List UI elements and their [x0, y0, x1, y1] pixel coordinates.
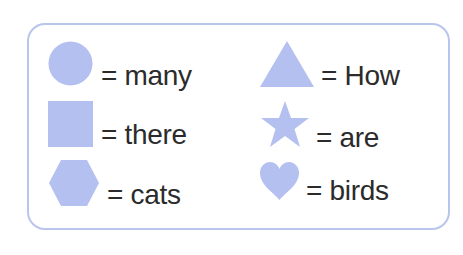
- legend-label-are: = are: [316, 124, 379, 152]
- legend-label-there: = there: [101, 121, 187, 149]
- legend-label-birds: = birds: [306, 177, 389, 205]
- legend-label-how: = How: [321, 62, 400, 90]
- square-icon: [48, 101, 93, 147]
- circle-icon: [48, 41, 93, 86]
- triangle-icon: [260, 41, 314, 87]
- legend-label-cats: = cats: [107, 181, 181, 209]
- heart-icon: [260, 162, 299, 201]
- legend-label-many: = many: [101, 62, 192, 90]
- hexagon-icon: [49, 160, 99, 206]
- star-icon: [261, 101, 309, 149]
